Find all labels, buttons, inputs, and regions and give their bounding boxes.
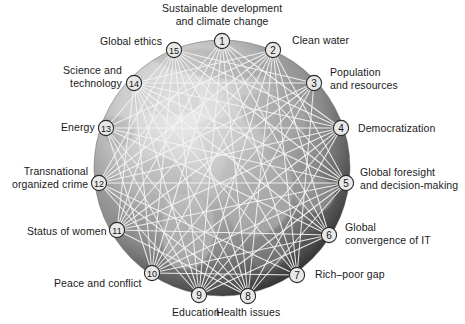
node-number: 1 [219, 36, 225, 47]
node-number: 15 [169, 46, 179, 56]
node-label-15: Global ethics [100, 35, 162, 48]
network-node-8[interactable]: 8 [240, 288, 255, 303]
node-label-7: Rich–poor gap [315, 268, 385, 281]
node-number: 4 [338, 123, 344, 134]
node-label-14: Science andtechnology [63, 64, 122, 89]
node-label-6: Globalconvergence of IT [345, 221, 431, 246]
node-label-2: Clean water [292, 34, 349, 47]
node-number: 9 [196, 290, 202, 301]
globe-network-svg: 123456789101112131415 [0, 0, 465, 324]
network-node-15[interactable]: 15 [166, 42, 181, 57]
node-label-10: Peace and conflict [54, 277, 142, 290]
node-label-8: Health issues [216, 306, 280, 319]
node-label-3: Populationand resources [330, 66, 398, 91]
node-number: 8 [245, 291, 251, 302]
node-number: 12 [94, 179, 104, 189]
node-number: 6 [326, 230, 332, 241]
network-node-4[interactable]: 4 [333, 120, 348, 135]
network-node-12[interactable]: 12 [91, 175, 106, 190]
node-number: 11 [112, 226, 121, 236]
node-label-1: Sustainable developmentand climate chang… [162, 2, 282, 27]
node-label-4: Democratization [358, 122, 435, 135]
network-node-1[interactable]: 1 [214, 33, 229, 48]
node-number: 7 [294, 270, 300, 281]
node-label-9: Education [172, 306, 220, 319]
network-node-9[interactable]: 9 [191, 287, 206, 302]
node-number: 10 [147, 269, 157, 279]
network-node-6[interactable]: 6 [321, 227, 336, 242]
network-node-7[interactable]: 7 [289, 267, 304, 282]
node-label-13: Energy [61, 121, 95, 134]
node-label-11: Status of women [27, 225, 107, 238]
network-node-13[interactable]: 13 [98, 120, 113, 135]
network-node-5[interactable]: 5 [338, 175, 353, 190]
network-node-10[interactable]: 10 [144, 265, 159, 280]
network-node-11[interactable]: 11 [109, 222, 124, 237]
node-label-5: Global foresightand decision-making [360, 166, 458, 191]
node-number: 13 [101, 124, 111, 134]
node-label-12: Transnationalorganized crime [12, 165, 88, 190]
node-number: 14 [129, 79, 139, 89]
network-node-3[interactable]: 3 [306, 75, 321, 90]
network-node-14[interactable]: 14 [126, 75, 141, 90]
node-number: 5 [343, 178, 349, 189]
network-node-2[interactable]: 2 [265, 42, 280, 57]
global-challenges-network-figure: 123456789101112131415 Sustainable develo… [0, 0, 465, 324]
node-number: 3 [311, 78, 317, 89]
node-number: 2 [270, 45, 276, 56]
